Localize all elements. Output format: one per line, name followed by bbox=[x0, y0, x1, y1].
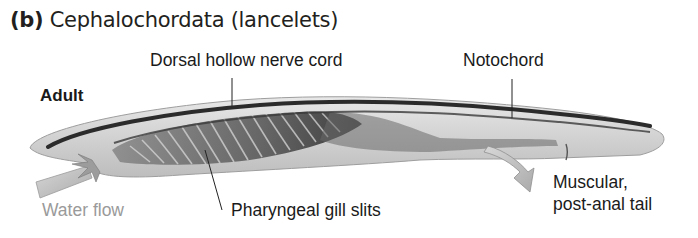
label-tail-line2: post-anal tail bbox=[553, 194, 652, 215]
label-adult: Adult bbox=[40, 86, 83, 106]
label-tail-line1: Muscular, bbox=[553, 172, 628, 193]
water-inflow-arrow bbox=[36, 166, 92, 198]
label-notochord: Notochord bbox=[463, 50, 544, 71]
label-pharyngeal-gill-slits: Pharyngeal gill slits bbox=[231, 200, 381, 221]
label-water-flow: Water flow bbox=[42, 200, 124, 221]
label-dorsal-nerve-cord: Dorsal hollow nerve cord bbox=[150, 50, 343, 71]
